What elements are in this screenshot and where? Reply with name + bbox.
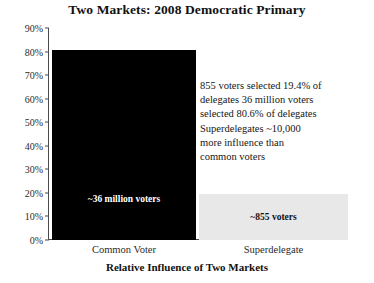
annotation-line: selected 80.6% of delegates: [200, 107, 350, 121]
bar-label-common-voter: ~36 million voters: [52, 194, 196, 204]
bar-superdelegate: ~855 voters: [199, 194, 348, 240]
chart-annotation: 855 voters selected 19.4% of delegates 3…: [200, 79, 350, 164]
y-axis-tick-mark: [45, 28, 49, 29]
y-axis-tick-mark: [45, 169, 49, 170]
y-axis-tick-mark: [45, 145, 49, 146]
y-axis-tick-mark: [45, 98, 49, 99]
y-axis-tick-mark: [45, 122, 49, 123]
x-axis-title: Relative Influence of Two Markets: [0, 261, 374, 273]
chart-page: Two Markets: 2008 Democratic Primary 90%…: [0, 0, 374, 283]
annotation-line: 855 voters selected 19.4% of: [200, 79, 350, 93]
bar-common-voter: ~36 million voters: [52, 50, 196, 240]
y-axis-tick-mark: [45, 192, 49, 193]
chart-title: Two Markets: 2008 Democratic Primary: [0, 2, 374, 18]
y-axis-tick-mark: [45, 240, 49, 241]
y-axis-tick-mark: [45, 216, 49, 217]
annotation-line: Superdelegates ~10,000: [200, 122, 350, 136]
y-axis-tick-mark: [45, 75, 49, 76]
y-axis-line: [48, 28, 49, 240]
bar-label-superdelegate: ~855 voters: [199, 212, 348, 222]
annotation-line: delegates 36 million voters: [200, 93, 350, 107]
x-axis-label-superdelegate: Superdelegate: [199, 244, 348, 255]
y-axis-tick-mark: [45, 51, 49, 52]
annotation-line: more influence than: [200, 136, 350, 150]
x-axis-label-common-voter: Common Voter: [52, 244, 196, 255]
annotation-line: common voters: [200, 150, 350, 164]
